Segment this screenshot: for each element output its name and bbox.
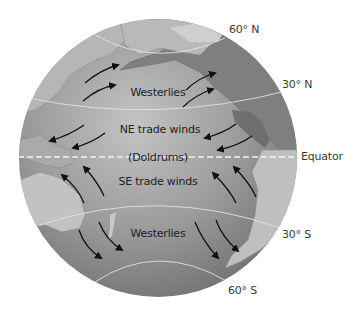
wind-label-se-trade-winds: SE trade winds (118, 175, 197, 188)
latitude-label-equator: Equator (301, 150, 343, 163)
latitude-label-60n: 60° N (229, 23, 259, 36)
latitude-label-30n: 30° N (282, 78, 312, 91)
wind-belts-diagram: 60° N 30° N Equator 30° S 60° S Westerli… (0, 0, 357, 325)
latitude-label-30s: 30° S (282, 228, 311, 241)
wind-label-westerlies-north: Westerlies (131, 86, 186, 99)
latitude-label-60s: 60° S (228, 284, 257, 297)
wind-label-westerlies-south: Westerlies (131, 227, 186, 240)
wind-label-doldrums: (Doldrums) (128, 151, 188, 164)
wind-label-ne-trade-winds: NE trade winds (120, 123, 200, 136)
